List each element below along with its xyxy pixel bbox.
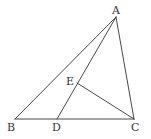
triangle-diagram: A B D C E [0, 0, 151, 139]
label-d: D [52, 121, 61, 134]
label-e: E [66, 75, 74, 88]
segment-ec [77, 83, 134, 119]
label-a: A [111, 4, 121, 17]
segment-ac [116, 17, 134, 119]
label-b: B [7, 121, 15, 134]
label-c: C [131, 121, 139, 134]
